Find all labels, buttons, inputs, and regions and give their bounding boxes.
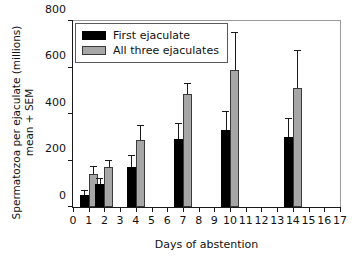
bar	[230, 70, 239, 207]
error-bar	[226, 112, 227, 131]
x-axis-tick-label: 7	[179, 214, 186, 227]
y-axis-tick	[68, 160, 73, 161]
x-axis-tick	[136, 207, 137, 212]
bar	[183, 94, 192, 207]
y-axis-title: Spermatozoa per ejaculate (millions) mea…	[10, 23, 35, 223]
error-bar	[93, 167, 94, 174]
y-axis-title-line2: mean + SEM	[22, 23, 35, 223]
x-axis-tick-label: 15	[302, 214, 316, 227]
legend-label-first-ejaculate: First ejaculate	[113, 30, 190, 41]
chart-legend: First ejaculate All three ejaculates	[75, 23, 228, 63]
error-bar	[288, 119, 289, 137]
error-bar	[297, 51, 298, 89]
x-axis-tick-label: 5	[148, 214, 155, 227]
x-axis-tick-label: 11	[239, 214, 253, 227]
x-axis-tick-label: 17	[333, 214, 347, 227]
x-axis-tick	[120, 207, 121, 212]
x-axis-title: Days of abstention	[72, 238, 341, 251]
chart-figure: Spermatozoa per ejaculate (millions) mea…	[0, 0, 360, 261]
y-axis-tick-label: 0	[59, 188, 66, 201]
error-bar-cap	[128, 155, 135, 156]
x-axis-tick	[246, 207, 247, 212]
error-bar	[84, 191, 85, 195]
error-bar-cap	[184, 83, 191, 84]
error-bar-cap	[175, 123, 182, 124]
x-axis-tick	[152, 207, 153, 212]
error-bar-cap	[222, 111, 229, 112]
error-bar-cap	[231, 32, 238, 33]
error-bar-cap	[90, 166, 97, 167]
y-axis-tick	[68, 20, 73, 21]
x-axis-tick	[89, 207, 90, 212]
x-axis-tick	[104, 207, 105, 212]
y-axis-tick-label: 400	[45, 95, 66, 108]
bar	[284, 137, 293, 207]
error-bar-cap	[294, 50, 301, 51]
y-axis-tick	[68, 113, 73, 114]
x-axis-tick	[199, 207, 200, 212]
x-axis-tick	[324, 207, 325, 212]
x-axis-tick-label: 9	[211, 214, 218, 227]
x-axis-tick-label: 12	[254, 214, 268, 227]
bar	[174, 139, 183, 207]
y-axis-tick-label: 200	[45, 142, 66, 155]
x-axis-tick	[214, 207, 215, 212]
error-bar	[100, 179, 101, 184]
error-bar	[235, 33, 236, 70]
x-axis-tick	[230, 207, 231, 212]
x-axis-tick-label: 4	[132, 214, 139, 227]
y-axis-tick	[68, 67, 73, 68]
error-bar-cap	[137, 125, 144, 126]
y-axis-tick-label: 600	[45, 49, 66, 62]
x-axis-tick-label: 0	[70, 214, 77, 227]
bar	[104, 167, 113, 207]
error-bar-cap	[96, 178, 103, 179]
legend-swatch-all-three-ejaculates	[82, 46, 106, 55]
x-axis-tick	[293, 207, 294, 212]
legend-item-all-three-ejaculates: All three ejaculates	[82, 43, 219, 58]
x-axis-tick-label: 2	[101, 214, 108, 227]
bar	[95, 184, 104, 207]
x-axis-tick-label: 6	[164, 214, 171, 227]
x-axis-tick-label: 10	[223, 214, 237, 227]
error-bar	[109, 161, 110, 168]
error-bar-cap	[105, 160, 112, 161]
y-axis-title-line1: Spermatozoa per ejaculate (millions)	[10, 26, 22, 220]
x-axis-tick-label: 14	[286, 214, 300, 227]
x-axis-tick	[167, 207, 168, 212]
error-bar	[131, 156, 132, 167]
x-axis-tick-label: 3	[117, 214, 124, 227]
error-bar-cap	[81, 190, 88, 191]
legend-swatch-first-ejaculate	[82, 31, 106, 40]
error-bar	[140, 126, 141, 140]
x-axis-tick-label: 16	[317, 214, 331, 227]
x-axis-tick	[261, 207, 262, 212]
x-axis-tick	[183, 207, 184, 212]
x-axis-tick	[73, 207, 74, 212]
x-axis-tick-label: 13	[270, 214, 284, 227]
error-bar-cap	[285, 118, 292, 119]
bar	[136, 140, 145, 207]
bar	[127, 167, 136, 207]
error-bar	[187, 84, 188, 94]
x-axis-tick-label: 8	[195, 214, 202, 227]
error-bar	[178, 124, 179, 138]
x-axis-tick-label: 1	[85, 214, 92, 227]
bar	[293, 88, 302, 207]
bar	[221, 130, 230, 207]
x-axis-tick	[277, 207, 278, 212]
x-axis-tick	[309, 207, 310, 212]
x-axis-tick	[340, 207, 341, 212]
legend-item-first-ejaculate: First ejaculate	[82, 28, 219, 43]
y-axis-tick-label: 800	[45, 2, 66, 15]
bar	[80, 195, 89, 207]
plot-area: First ejaculate All three ejaculates 020…	[72, 20, 341, 208]
legend-label-all-three-ejaculates: All three ejaculates	[113, 45, 219, 56]
